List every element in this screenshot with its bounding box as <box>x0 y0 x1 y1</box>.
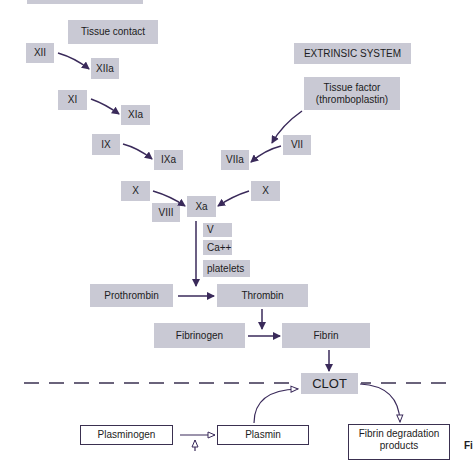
arrow-vii-to-viia <box>251 146 281 162</box>
arrow-ix-to-ixa <box>123 144 152 159</box>
arrow-tissuefactor-to-viia <box>272 111 302 143</box>
arrow-clot-to-fdp <box>360 384 400 422</box>
arrow-xii-to-xiia <box>58 53 89 69</box>
arrow-x-to-xa-right <box>218 191 249 206</box>
arrow-x-to-xa-left <box>153 191 185 206</box>
arrow-xi-to-xia <box>91 99 119 114</box>
arrow-plasmin-to-clot <box>254 389 298 423</box>
